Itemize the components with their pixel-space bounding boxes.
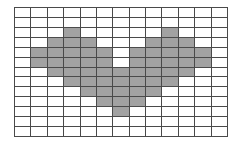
grid-cell-empty — [162, 87, 178, 97]
grid-cell-empty — [212, 18, 228, 28]
grid-cell-filled — [48, 38, 64, 48]
grid-cell-empty — [31, 127, 47, 137]
grid-cell-empty — [162, 97, 178, 107]
grid-cell-empty — [195, 87, 211, 97]
grid-cell-filled — [113, 68, 129, 78]
grid-cell-empty — [146, 18, 162, 28]
grid-cell-filled — [48, 58, 64, 68]
grid-cell-empty — [31, 28, 47, 38]
grid-cell-empty — [64, 18, 80, 28]
grid-cell-empty — [97, 28, 113, 38]
grid-cell-filled — [81, 87, 97, 97]
grid-cell-empty — [48, 18, 64, 28]
grid-cell-empty — [48, 127, 64, 137]
figure-canvas — [0, 0, 239, 147]
grid-cell-empty — [15, 48, 31, 58]
grid-cell-empty — [179, 8, 195, 18]
grid-cell-empty — [130, 107, 146, 117]
grid-cell-empty — [179, 28, 195, 38]
grid-cell-empty — [64, 8, 80, 18]
grid-cell-filled — [146, 68, 162, 78]
grid-cell-empty — [130, 38, 146, 48]
grid-cell-filled — [81, 38, 97, 48]
grid-cell-empty — [162, 18, 178, 28]
grid-cell-empty — [81, 97, 97, 107]
grid-cell-empty — [212, 127, 228, 137]
grid-cell-filled — [81, 68, 97, 78]
grid-cell-empty — [97, 117, 113, 127]
grid-cell-empty — [179, 77, 195, 87]
grid-cell-filled — [130, 58, 146, 68]
grid-cell-empty — [31, 107, 47, 117]
grid-cell-empty — [195, 68, 211, 78]
grid-cell-empty — [15, 28, 31, 38]
grid-cell-empty — [212, 97, 228, 107]
grid-cell-filled — [130, 97, 146, 107]
grid-cell-empty — [212, 77, 228, 87]
grid-cell-empty — [97, 107, 113, 117]
grid-cell-filled — [130, 87, 146, 97]
grid-cell-filled — [162, 58, 178, 68]
grid-cell-empty — [48, 28, 64, 38]
grid-cell-empty — [113, 18, 129, 28]
grid-cell-filled — [162, 28, 178, 38]
grid-cell-empty — [212, 107, 228, 117]
grid-cell-empty — [31, 68, 47, 78]
grid-cell-filled — [179, 58, 195, 68]
grid-cell-empty — [130, 117, 146, 127]
grid-cell-empty — [31, 77, 47, 87]
grid-cell-empty — [195, 18, 211, 28]
grid-cell-empty — [48, 77, 64, 87]
grid-cell-empty — [97, 127, 113, 137]
grid-cell-empty — [162, 127, 178, 137]
grid-cell-filled — [48, 68, 64, 78]
grid-cell-filled — [64, 77, 80, 87]
grid-cell-empty — [212, 87, 228, 97]
grid-cell-filled — [81, 77, 97, 87]
grid-cell-empty — [64, 87, 80, 97]
grid-cell-empty — [130, 18, 146, 28]
grid-cell-empty — [31, 117, 47, 127]
grid-cell-empty — [179, 117, 195, 127]
grid-cell-filled — [113, 87, 129, 97]
grid-cell-empty — [146, 127, 162, 137]
grid-cell-empty — [179, 97, 195, 107]
grid-cell-filled — [179, 48, 195, 58]
grid-cell-empty — [179, 87, 195, 97]
grid-cell-empty — [81, 28, 97, 38]
grid-cell-empty — [212, 38, 228, 48]
grid-cell-filled — [48, 48, 64, 58]
grid-cell-filled — [195, 58, 211, 68]
grid-cell-empty — [97, 18, 113, 28]
grid-cell-empty — [146, 28, 162, 38]
grid-cell-empty — [162, 8, 178, 18]
grid-cell-empty — [146, 107, 162, 117]
grid-cell-empty — [15, 58, 31, 68]
grid-cell-empty — [81, 18, 97, 28]
grid-cell-filled — [146, 87, 162, 97]
grid-cell-empty — [212, 58, 228, 68]
grid-cell-filled — [81, 48, 97, 58]
grid-cell-filled — [64, 48, 80, 58]
grid-cell-empty — [130, 127, 146, 137]
grid-cell-filled — [97, 77, 113, 87]
grid-cell-empty — [113, 48, 129, 58]
grid-cell-filled — [195, 48, 211, 58]
grid-cell-filled — [97, 97, 113, 107]
grid-cell-empty — [64, 117, 80, 127]
grid-cell-filled — [64, 58, 80, 68]
grid-cell-filled — [113, 97, 129, 107]
grid-cell-empty — [212, 117, 228, 127]
grid-cell-filled — [97, 87, 113, 97]
grid-cell-empty — [48, 107, 64, 117]
grid-cell-filled — [81, 58, 97, 68]
grid-cell-empty — [15, 127, 31, 137]
grid-cell-empty — [15, 87, 31, 97]
grid-cell-empty — [195, 127, 211, 137]
grid-cell-filled — [97, 58, 113, 68]
grid-cell-filled — [97, 68, 113, 78]
grid-cell-empty — [212, 48, 228, 58]
grid-cell-empty — [212, 28, 228, 38]
grid-cell-empty — [113, 127, 129, 137]
grid-cell-filled — [146, 38, 162, 48]
